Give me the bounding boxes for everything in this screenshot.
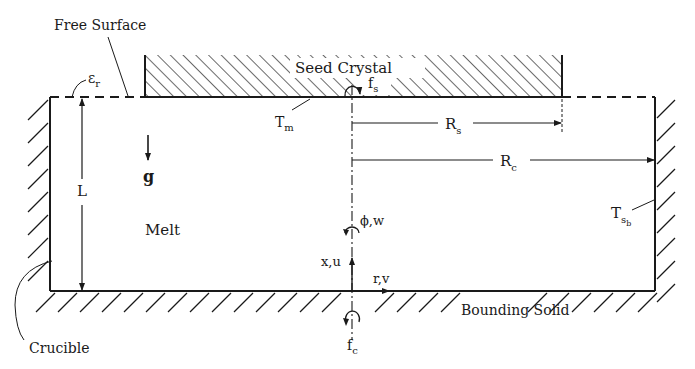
crucible-leader [15,261,52,340]
gravity-label: g [143,167,154,186]
crystal-growth-diagram: Free Surface εr Seed Crystal fs Tm Rs Rc… [0,0,695,369]
emissivity-label: εr [88,70,100,89]
axial-label: x,u [321,254,341,269]
bounding-solid-label: Bounding Solid [461,302,570,318]
wall-temp-label: Tsb [611,204,631,228]
left-wall-hatching [28,100,48,281]
seed-crystal-label: Seed Crystal [295,59,392,77]
crucible-rotation-arrowhead-icon [343,318,349,326]
wall-temp-leader [632,200,654,210]
crucible-radius-label: Rc [500,152,517,173]
depth-label: L [77,182,87,200]
azimuthal-label: ϕ,w [360,213,384,228]
crucible-label: Crucible [29,340,89,356]
azimuthal-arrowhead-icon [343,229,349,236]
melt-label: Melt [145,221,180,239]
melt-temp-leader [292,99,310,110]
right-wall-hatching [657,100,675,302]
free-surface-leader [108,37,128,96]
emissivity-leader [72,80,86,97]
melt-temp-label: Tm [275,114,294,133]
radial-label: r,v [373,271,390,286]
crucible-rotation-label: fc [347,337,358,356]
seed-radius-label: Rs [445,115,461,136]
free-surface-label: Free Surface [54,17,146,33]
